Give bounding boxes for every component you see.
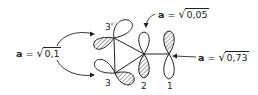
atom-label-1: 1: [167, 82, 173, 91]
coefficient-2: a = √0,05: [158, 9, 209, 20]
orbital-1: [164, 31, 175, 79]
atom-label-3prime: 3': [105, 23, 113, 32]
coefficient-3-3prime: a = √0,1: [16, 48, 61, 59]
coefficient-1: a = √0,73: [198, 52, 249, 63]
atom-label-2: 2: [141, 82, 147, 91]
atom-label-3: 3: [105, 79, 111, 88]
orbital-2: [139, 32, 150, 78]
